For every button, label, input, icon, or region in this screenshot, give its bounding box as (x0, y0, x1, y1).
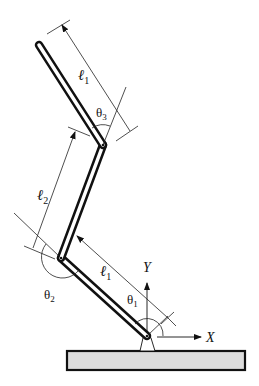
theta1-angle: θ1 (127, 292, 168, 336)
upper-link-length-label: ℓ1 (78, 67, 89, 86)
link-upper (39, 45, 103, 145)
base-plate (67, 351, 245, 370)
theta1-label: θ1 (127, 292, 138, 309)
middle-link-length-label: ℓ2 (37, 187, 48, 206)
theta2-label: θ2 (44, 287, 55, 304)
coordinate-axes: Y X (143, 260, 215, 345)
y-axis-label: Y (143, 260, 153, 275)
theta3-label: θ3 (96, 105, 107, 122)
x-axis-label: X (205, 330, 215, 345)
link-middle (61, 145, 103, 258)
robot-arm-diagram: Y X ℓ1 θ1 ℓ2 θ2 (0, 0, 259, 386)
